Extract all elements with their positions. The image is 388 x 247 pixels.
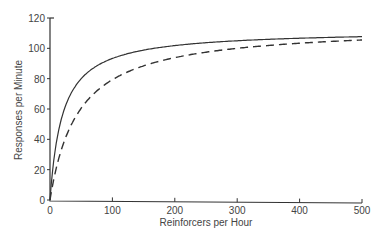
- y-tick-label: 20: [34, 165, 46, 176]
- y-axis-label: Responses per Minute: [13, 60, 24, 160]
- y-ticks: 020406080100120: [28, 13, 50, 206]
- series-line-dashed: [50, 40, 362, 200]
- data-lines: [50, 37, 362, 200]
- x-tick-label: 200: [166, 205, 183, 216]
- y-tick-label: 100: [28, 43, 45, 54]
- y-tick-label: 60: [34, 104, 46, 115]
- x-tick-label: 500: [354, 205, 371, 216]
- chart: 020406080100120 0100200300400500 Reinfor…: [0, 0, 388, 247]
- x-tick-label: 400: [291, 205, 308, 216]
- series-line-solid: [50, 37, 362, 200]
- x-tick-label: 0: [47, 205, 53, 216]
- x-ticks: 0100200300400500: [47, 197, 371, 216]
- x-tick-label: 100: [104, 205, 121, 216]
- y-tick-label: 0: [39, 195, 45, 206]
- y-tick-label: 120: [28, 13, 45, 24]
- y-tick-label: 40: [34, 134, 46, 145]
- x-axis-label: Reinforcers per Hour: [160, 217, 253, 228]
- axes: [50, 18, 362, 203]
- x-tick-label: 300: [229, 205, 246, 216]
- y-tick-label: 80: [34, 74, 46, 85]
